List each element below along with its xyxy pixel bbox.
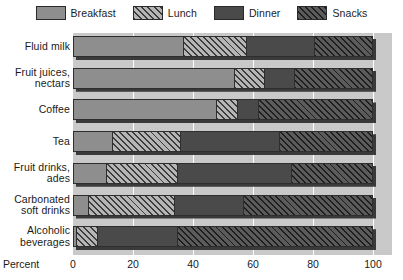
bar-segment-lunch[interactable] [107,164,179,183]
bar-segment-breakfast[interactable] [74,37,184,56]
bar-segment-snacks[interactable] [315,37,372,56]
category-label: Tea [0,136,70,148]
bar-segment-snacks[interactable] [280,132,372,151]
bar-row [73,36,373,57]
category-label: Fruit drinks,ades [0,162,70,185]
legend-label: Breakfast [71,7,116,19]
x-tick-label: 40 [187,258,199,270]
bar-segment-breakfast[interactable] [74,69,235,88]
chart-legend: BreakfastLunchDinnerSnacks [0,2,403,24]
category-label: Carbonatedsoft drinks [0,194,70,217]
legend-label: Snacks [332,7,367,19]
bar-segment-dinner[interactable] [175,196,244,215]
category-label-line: Tea [0,136,70,148]
bar-stack [73,226,373,247]
category-axis-labels: Fluid milkFruit juices,nectarsCoffeeTeaF… [0,33,70,255]
category-label-line: beverages [0,237,70,249]
bar-row [73,68,373,89]
bar-stack [73,163,373,184]
bar-stack [73,36,373,57]
category-label-line: ades [0,173,70,185]
legend-item-dinner[interactable]: Dinner [214,6,281,20]
category-label: Fluid milk [0,41,70,53]
bar-segment-lunch[interactable] [89,196,175,215]
x-tick-label: 60 [247,258,259,270]
bar-segment-breakfast[interactable] [74,100,217,119]
category-label-line: Fluid milk [0,41,70,53]
bar-segment-snacks[interactable] [244,196,372,215]
bar-row [73,163,373,184]
bar-stack [73,68,373,89]
bar-row [73,226,373,247]
legend-swatch-dinner-icon [214,6,244,20]
legend-label: Dinner [249,7,281,19]
axis-label-percent: Percent [3,258,39,270]
bar-segment-dinner[interactable] [178,164,291,183]
bar-segment-lunch[interactable] [184,37,247,56]
bar-segment-dinner[interactable] [247,37,316,56]
bar-segment-lunch[interactable] [217,100,238,119]
legend-swatch-snacks-icon [297,6,327,20]
legend-swatch-breakfast-icon [36,6,66,20]
category-label-line: soft drinks [0,205,70,217]
bar-segment-breakfast[interactable] [74,164,107,183]
bar-segment-snacks[interactable] [178,227,372,246]
bar-segment-dinner[interactable] [238,100,259,119]
bar-row [73,131,373,152]
bar-segment-breakfast[interactable] [74,196,89,215]
category-label: Alcoholicbeverages [0,225,70,248]
plot-area [73,33,392,255]
bar-segment-snacks[interactable] [292,164,372,183]
bar-stack [73,195,373,216]
bar-segment-lunch[interactable] [235,69,265,88]
value-axis: Percent 020406080100 [0,256,403,276]
bar-segment-snacks[interactable] [295,69,372,88]
legend-item-snacks[interactable]: Snacks [297,6,367,20]
x-tick-label: 0 [70,258,76,270]
bar-segment-breakfast[interactable] [74,132,113,151]
category-label-line: Coffee [0,104,70,116]
bar-segment-snacks[interactable] [259,100,372,119]
bar-segment-lunch[interactable] [113,132,182,151]
legend-swatch-lunch-icon [133,6,163,20]
category-label: Coffee [0,104,70,116]
category-label: Fruit juices,nectars [0,67,70,90]
bar-stack [73,99,373,120]
bar-segment-dinner[interactable] [98,227,178,246]
legend-item-lunch[interactable]: Lunch [133,6,197,20]
x-tick-label: 80 [307,258,319,270]
category-label-line: nectars [0,78,70,90]
legend-label: Lunch [168,7,197,19]
bar-row [73,99,373,120]
bar-row [73,195,373,216]
bar-segment-dinner[interactable] [181,132,279,151]
stacked-bar-chart: BreakfastLunchDinnerSnacks Fluid milkFru… [0,0,403,280]
x-tick-label: 100 [364,258,382,270]
bar-segment-lunch[interactable] [77,227,98,246]
bar-segment-dinner[interactable] [265,69,295,88]
legend-item-breakfast[interactable]: Breakfast [36,6,116,20]
x-tick-label: 20 [127,258,139,270]
bar-stack [73,131,373,152]
bar-series-container [73,33,373,255]
